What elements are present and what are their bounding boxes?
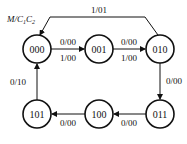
label-001-010-bot: 1/00	[121, 53, 138, 63]
label-001-010-top: 0/00	[121, 37, 138, 47]
state-diagram: M/C1C2 000 001 010 011 100 101 0/00 1/00…	[0, 0, 187, 144]
io-label: M/C1C2	[6, 14, 35, 25]
svg-text:101: 101	[30, 109, 45, 120]
svg-text:000: 000	[30, 44, 45, 55]
svg-text:011: 011	[153, 109, 168, 120]
label-000-001-bot: 1/00	[60, 53, 77, 63]
state-001: 001	[85, 35, 113, 63]
label-101-000: 0/10	[10, 77, 27, 87]
state-011: 011	[146, 100, 174, 128]
label-100-101: 0/00	[60, 118, 77, 128]
state-000: 000	[23, 35, 51, 63]
state-100: 100	[85, 100, 113, 128]
state-101: 101	[23, 100, 51, 128]
svg-text:010: 010	[153, 44, 168, 55]
svg-text:001: 001	[92, 44, 107, 55]
label-010-011: 0/00	[166, 76, 183, 86]
svg-text:100: 100	[92, 109, 107, 120]
arrow-010-000	[40, 17, 158, 35]
state-010: 010	[146, 35, 174, 63]
label-011-100: 0/00	[121, 118, 138, 128]
label-010-000: 1/01	[91, 5, 107, 15]
label-000-001-top: 0/00	[60, 37, 77, 47]
